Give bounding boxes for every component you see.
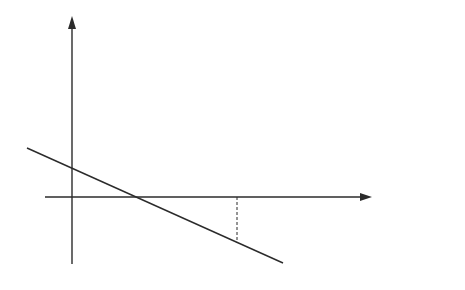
y-axis-arrow-icon [68, 16, 76, 29]
x-axis-arrow-icon [360, 193, 372, 201]
plot-canvas [0, 0, 465, 290]
diagram [0, 0, 465, 290]
line-curve [27, 148, 283, 263]
